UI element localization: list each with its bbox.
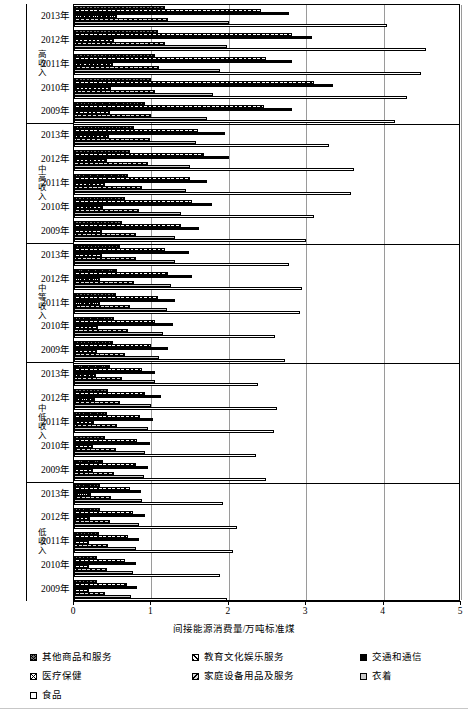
group-label-5: 低收入 <box>27 482 53 601</box>
x-tick <box>228 601 229 605</box>
legend-swatch-icon <box>30 654 37 661</box>
x-tick-label: 3 <box>303 606 308 617</box>
bar <box>74 72 421 75</box>
y-axis-group-labels: 高收入中高收入中等收入中低收入低收入 <box>27 0 53 713</box>
bar <box>74 454 256 457</box>
legend-item-2[interactable]: 教育文化娱乐服务 <box>192 652 284 663</box>
bar <box>74 96 407 99</box>
bar <box>74 168 354 171</box>
group-label-3: 中等收入 <box>27 243 53 362</box>
bar <box>74 48 426 51</box>
group-label-text: 中高收入 <box>36 165 45 201</box>
legend-label: 交通和通信 <box>372 652 422 663</box>
gridline-5 <box>461 5 462 600</box>
legend-item-1[interactable]: 其他商品和服务 <box>30 652 112 663</box>
x-tick-label: 5 <box>458 606 463 617</box>
group-separator <box>74 363 459 364</box>
group-label-text: 中低收入 <box>36 404 45 440</box>
x-tick-label: 4 <box>380 606 385 617</box>
bar <box>74 215 314 218</box>
legend-item-3[interactable]: 交通和通信 <box>360 652 422 663</box>
bottom-rule <box>0 708 468 709</box>
x-tick <box>73 601 74 605</box>
legend-label: 医疗保健 <box>42 671 82 682</box>
x-tick <box>460 601 461 605</box>
x-tick <box>383 601 384 605</box>
x-axis-label: 间接能源消费量/万吨标准煤 <box>0 621 468 635</box>
bar <box>74 144 329 147</box>
x-axis-line <box>73 601 460 602</box>
chart-figure: 2013年2012年2011年2010年2009年2013年2012年2011年… <box>0 0 468 713</box>
legend-label: 衣着 <box>372 671 392 682</box>
bar <box>74 430 274 433</box>
legend-label: 家庭设备用品及服务 <box>204 671 294 682</box>
group-label-text: 低收入 <box>36 528 45 555</box>
group-label-text: 中等收入 <box>36 284 45 320</box>
x-tick <box>150 601 151 605</box>
bar <box>74 263 289 266</box>
bar <box>74 84 333 87</box>
group-separator <box>74 244 459 245</box>
legend-swatch-icon <box>192 654 199 661</box>
bar <box>74 550 233 553</box>
bar <box>74 120 395 123</box>
legend-swatch-icon <box>360 673 367 680</box>
bar <box>74 502 223 505</box>
x-tick-label: 1 <box>148 606 153 617</box>
gridline-3 <box>306 5 307 600</box>
gridline-4 <box>384 5 385 600</box>
bar <box>74 287 302 290</box>
plot-area <box>73 4 460 601</box>
legend-swatch-icon <box>192 673 199 680</box>
x-tick-label: 0 <box>71 606 76 617</box>
legend-item-5[interactable]: 家庭设备用品及服务 <box>192 671 294 682</box>
bar <box>74 383 258 386</box>
legend-label: 其他商品和服务 <box>42 652 112 663</box>
bar <box>74 192 351 195</box>
bar <box>74 478 266 481</box>
bar <box>74 239 306 242</box>
legend-swatch-icon <box>30 692 37 699</box>
group-label-4: 中低收入 <box>27 362 53 481</box>
group-label-1: 高收入 <box>27 4 53 123</box>
group-label-2: 中高收入 <box>27 123 53 242</box>
bar <box>74 574 220 577</box>
legend-label: 教育文化娱乐服务 <box>204 652 284 663</box>
legend-item-4[interactable]: 医疗保健 <box>30 671 82 682</box>
group-separator <box>74 483 459 484</box>
legend-swatch-icon <box>30 673 37 680</box>
bar <box>74 311 300 314</box>
legend-item-6[interactable]: 衣着 <box>360 671 392 682</box>
bar <box>74 24 387 27</box>
gridline-2 <box>229 5 230 600</box>
x-tick-label: 2 <box>225 606 230 617</box>
legend-swatch-icon <box>360 654 367 661</box>
bar <box>74 407 277 410</box>
legend: 其他商品和服务教育文化娱乐服务交通和通信医疗保健家庭设备用品及服务衣着食品 <box>30 652 460 708</box>
legend-item-7[interactable]: 食品 <box>30 690 62 701</box>
x-tick <box>305 601 306 605</box>
bar <box>74 359 285 362</box>
bar <box>74 526 237 529</box>
group-label-text: 高收入 <box>36 50 45 77</box>
legend-label: 食品 <box>42 690 62 701</box>
bar <box>74 335 275 338</box>
